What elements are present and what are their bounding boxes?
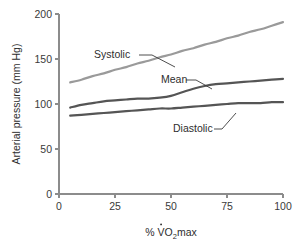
- chart-container: 050100150200 0255075100 SystolicMeanDias…: [0, 0, 298, 249]
- x-axis-title: %VO2max: [145, 223, 197, 240]
- x-axis-title-max: max: [177, 226, 198, 238]
- y-axis-title: Arterial pressure (mm Hg): [10, 44, 22, 165]
- annotation-label-systolic: Systolic: [94, 48, 130, 60]
- annotation-leader-diastolic: [214, 113, 236, 129]
- y-tick-label-0: 0: [46, 188, 52, 200]
- series-annotations: SystolicMeanDiastolic: [94, 48, 236, 134]
- v-dot-icon: [160, 223, 162, 225]
- y-tick-label-150: 150: [34, 53, 52, 65]
- x-axis-title-text: %VO2max: [145, 226, 197, 241]
- data-series-group: [70, 22, 283, 116]
- x-tick-label-100: 100: [274, 200, 292, 212]
- x-axis-ticks: 0255075100: [56, 194, 292, 212]
- y-tick-label-50: 50: [40, 143, 52, 155]
- y-axis-ticks: 050100150200: [34, 8, 59, 200]
- x-tick-label-50: 50: [165, 200, 177, 212]
- x-tick-label-0: 0: [56, 200, 62, 212]
- x-tick-label-75: 75: [221, 200, 233, 212]
- y-tick-label-100: 100: [34, 98, 52, 110]
- annotation-label-mean: Mean: [161, 73, 187, 85]
- x-axis-title-o: O: [165, 226, 173, 238]
- annotation-label-diastolic: Diastolic: [173, 122, 213, 134]
- x-axis-title-percent: %: [145, 226, 154, 238]
- x-axis-title-vdot: V: [158, 226, 165, 238]
- arterial-pressure-line-chart: 050100150200 0255075100 SystolicMeanDias…: [0, 0, 298, 249]
- series-line-diastolic: [70, 102, 283, 116]
- x-tick-label-25: 25: [109, 200, 121, 212]
- y-tick-label-200: 200: [34, 8, 52, 20]
